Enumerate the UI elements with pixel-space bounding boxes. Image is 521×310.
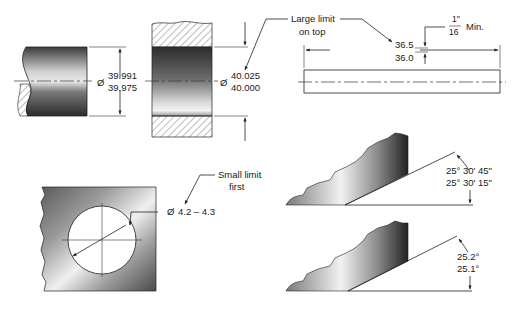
- bore-lower-limit: 40.000: [231, 82, 260, 93]
- small-limit-label-line2: first: [229, 181, 245, 192]
- angle-decimal-upper-limit: 25.2°: [457, 251, 479, 262]
- bore-upper-limit: 40.025: [231, 70, 260, 81]
- plate-view: Ø 4.2 – 4.3: [40, 187, 215, 291]
- angle-dms-upper-limit: 25° 30' 45": [446, 165, 492, 176]
- bar-view: 36.5 36.0 1" 16 Min.: [298, 14, 506, 93]
- shaft-view: Ø 39.991 39.975: [14, 47, 137, 116]
- large-limit-callout: Large limit on top: [245, 13, 392, 70]
- large-limit-label-line1: Large limit: [291, 13, 335, 24]
- shaft-diameter-symbol: Ø: [97, 77, 105, 88]
- angle-dms-lower-limit: 25° 30' 15": [446, 177, 492, 188]
- spacing-numerator: 1": [452, 14, 460, 24]
- small-limit-callout: Small limit first: [185, 169, 262, 204]
- wedge-dms-view: 25° 30' 45" 25° 30' 15": [286, 133, 492, 205]
- spacing-denominator: 16: [449, 27, 459, 37]
- shaft-upper-limit: 39.991: [108, 70, 137, 81]
- small-limit-label-line1: Small limit: [218, 169, 262, 180]
- wedge-decimal-view: 25.2° 25.1°: [286, 221, 479, 291]
- bar-length-lower-limit: 36.0: [395, 52, 414, 63]
- bar-length-upper-limit: 36.5: [395, 39, 414, 50]
- bore-diameter-symbol: Ø: [220, 77, 228, 88]
- hole-diameter-range: 4.2 – 4.3: [178, 206, 215, 217]
- limit-dimensioning-diagram: Ø 39.991 39.975 Ø 40.025 40.000 Large li…: [0, 0, 521, 310]
- hole-diameter-symbol: Ø: [167, 206, 175, 217]
- bore-view: Ø 40.025 40.000: [145, 22, 260, 141]
- shaft-lower-limit: 39.975: [108, 82, 137, 93]
- large-limit-label-line2: on top: [299, 26, 325, 37]
- spacing-suffix: Min.: [466, 21, 484, 32]
- angle-decimal-lower-limit: 25.1°: [457, 263, 479, 274]
